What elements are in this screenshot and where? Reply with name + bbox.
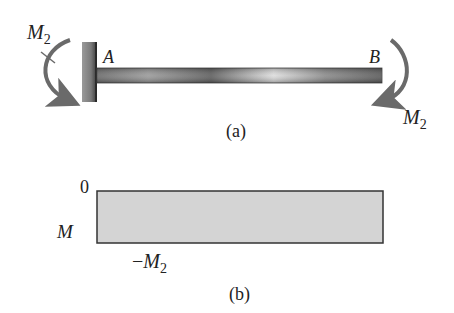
point-b-label: B [369, 48, 380, 66]
point-a-label: A [103, 48, 114, 66]
moment-diagram-area [97, 191, 383, 243]
value-label: −M2 [132, 251, 167, 276]
axis-label-m: M [57, 222, 73, 241]
moment-arrow-left-icon [45, 40, 70, 99]
moment-label-left: M2 [27, 22, 51, 47]
zero-label: 0 [80, 178, 89, 196]
moment-arrow-right-icon [386, 40, 407, 100]
moment-label-right: M2 [403, 107, 427, 132]
caption-b: (b) [229, 285, 250, 303]
fixed-wall-support [82, 42, 97, 102]
figure-a [41, 40, 407, 102]
beam-shading [97, 68, 382, 83]
diagram-canvas [0, 0, 454, 313]
figure-b [97, 191, 383, 243]
caption-a: (a) [226, 122, 246, 140]
